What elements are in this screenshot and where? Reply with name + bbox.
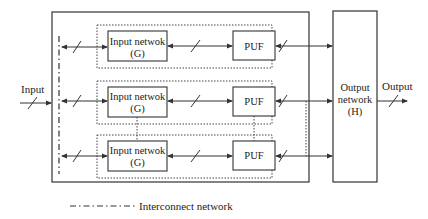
module-1: Input netwok (G) PUF bbox=[62, 25, 332, 68]
module-3-input-network-g: (G) bbox=[130, 157, 145, 169]
input-label: Input bbox=[21, 83, 44, 95]
legend-interconnect-label: Interconnect network bbox=[139, 200, 233, 212]
module-2-puf-label: PUF bbox=[244, 96, 263, 107]
output-label: Output bbox=[382, 80, 413, 92]
output-network-label-1: Output bbox=[340, 82, 369, 93]
module-2: Input netwok (G) PUF bbox=[62, 81, 332, 124]
module-1-input-network-g: (G) bbox=[130, 48, 145, 60]
puf-architecture-diagram: Output network (H) Input Output Input ne… bbox=[0, 0, 428, 219]
module-2-input-network-g: (G) bbox=[130, 103, 145, 115]
output-network-label-3: (H) bbox=[348, 106, 363, 118]
module-3-puf-label: PUF bbox=[244, 150, 263, 161]
module-2-input-network-label: Input netwok bbox=[110, 91, 166, 102]
module-3-input-network-label: Input netwok bbox=[110, 145, 166, 156]
module-1-input-network-label: Input netwok bbox=[110, 36, 166, 47]
module-1-puf-label: PUF bbox=[244, 41, 263, 52]
module-3: Input netwok (G) PUF bbox=[62, 135, 332, 178]
output-network-label-2: network bbox=[338, 94, 373, 105]
